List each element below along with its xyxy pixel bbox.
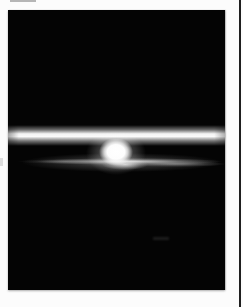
sunset-photograph — [8, 10, 225, 290]
faint-smudge-lower-frame — [153, 237, 169, 240]
page-edge-line — [239, 0, 241, 307]
page-background — [0, 0, 243, 307]
scan-smudge-left-margin — [0, 158, 3, 166]
sun-disc — [99, 139, 133, 167]
scan-smudge-top-margin — [10, 0, 36, 2]
